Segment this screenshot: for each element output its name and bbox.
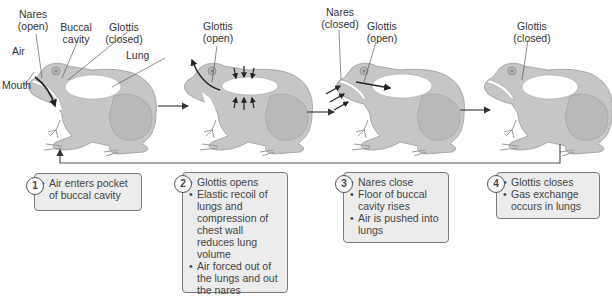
label-glottis-1: Glottis (closed): [100, 22, 148, 45]
step-box-3: Nares close Floor of buccal cavity rises…: [343, 172, 449, 243]
step-2-bullet: Elastic recoil of lungs and compression …: [189, 188, 283, 260]
frog-stage-2: [184, 60, 312, 156]
step-3-bullet: Floor of buccal cavity rises: [350, 188, 444, 212]
step-4-bullet: Gas exchange occurs in lungs: [503, 188, 595, 212]
label-buccal-cavity: Buccal cavity: [56, 22, 96, 45]
step-number-2: 2: [174, 175, 192, 193]
frog-stage-4: [484, 63, 612, 156]
label-air: Air: [12, 46, 25, 58]
label-nares-3: Nares (closed): [316, 7, 364, 30]
step-3-bullet: Nares close: [350, 176, 444, 188]
diagram-canvas: [0, 0, 612, 301]
step-3-bullet: Air is pushed into lungs: [350, 212, 444, 236]
step-number-1: 1: [26, 177, 44, 195]
label-glottis-4: Glottis (closed): [508, 21, 556, 44]
frog-stage-1: [28, 63, 156, 156]
step-number-4: 4: [487, 175, 505, 193]
step-4-bullet: Glottis closes: [503, 176, 595, 188]
label-mouth: Mouth: [2, 80, 31, 92]
label-glottis-2: Glottis (open): [196, 21, 240, 44]
step-box-4: Glottis closes Gas exchange occurs in lu…: [496, 172, 600, 219]
label-lung: Lung: [126, 50, 149, 62]
step-1-bullet: Air enters pocket of buccal cavity: [41, 177, 137, 201]
step-2-bullet: Glottis opens: [189, 176, 283, 188]
step-box-1: Air enters pocket of buccal cavity: [34, 173, 142, 211]
label-glottis-3: Glottis (open): [360, 21, 404, 44]
step-number-3: 3: [335, 175, 353, 193]
step-box-2: Glottis opens Elastic recoil of lungs an…: [182, 172, 288, 293]
frog-stage-3: [326, 63, 464, 156]
label-nares-1: Nares (open): [14, 9, 52, 32]
step-2-bullet: Air forced out of the lungs and out the …: [189, 260, 283, 296]
